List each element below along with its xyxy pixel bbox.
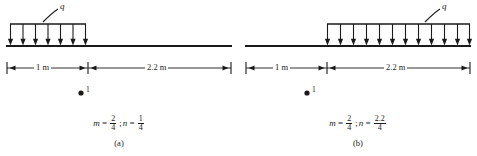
formula-a-m-numerator: 2: [110, 115, 116, 123]
dimension-label-a-2: 2.2 m: [145, 63, 168, 72]
formula-b-eq2: =: [366, 118, 371, 128]
formula-b-eq1: =: [338, 118, 343, 128]
load-leader-b: [425, 9, 440, 22]
caption-b: (b): [239, 139, 477, 148]
caption-a: (a): [0, 139, 238, 148]
load-leader-a: [43, 9, 58, 22]
panel-a: q 1 m 2.2 m 1 m = 2 4 ;n = 1 4 (a): [0, 0, 238, 156]
point-label-a: 1: [86, 86, 90, 94]
formula-a-n-var: n: [123, 118, 128, 128]
formula-b-m-numerator: 2: [346, 115, 352, 123]
dimension-label-a-1: 1 m: [34, 63, 51, 72]
formula-a-n-fraction: 1 4: [138, 115, 144, 133]
load-label-a: q: [60, 2, 65, 11]
load-arrows-a: [8, 24, 88, 45]
formula-b-n-denominator: 4: [374, 123, 386, 132]
load-arrows-b: [325, 24, 472, 45]
formula-b: m = 2 4 ;n = 2.2 4: [239, 115, 477, 133]
formula-b-n-var: n: [359, 118, 364, 128]
formula-a-eq2: =: [130, 118, 135, 128]
beam-load-figure: q 1 m 2.2 m 1 m = 2 4 ;n = 1 4 (a): [0, 0, 477, 156]
formula-b-m-var: m: [329, 118, 336, 128]
panel-a-drawing: [0, 0, 238, 100]
formula-a-n-denominator: 4: [138, 123, 144, 132]
load-label-b: q: [442, 2, 447, 11]
formula-a-m-var: m: [93, 118, 100, 128]
point-label-b: 1: [312, 86, 316, 94]
point-marker-a: [78, 90, 83, 95]
panel-b: q 1 m 2.2 m 1 m = 2 4 ;n = 2.2 4 (b): [239, 0, 477, 156]
formula-a-m-denominator: 4: [110, 123, 116, 132]
formula-a-n-numerator: 1: [138, 115, 144, 123]
formula-b-n-fraction: 2.2 4: [374, 115, 386, 133]
dimension-label-b-1: 1 m: [273, 63, 290, 72]
panel-b-drawing: [239, 0, 477, 100]
formula-a: m = 2 4 ;n = 1 4: [0, 115, 238, 133]
dimension-label-b-2: 2.2 m: [384, 63, 407, 72]
formula-b-n-numerator: 2.2: [374, 115, 386, 123]
formula-a-eq1: =: [102, 118, 107, 128]
formula-b-m-denominator: 4: [346, 123, 352, 132]
formula-b-m-fraction: 2 4: [346, 115, 352, 133]
formula-a-m-fraction: 2 4: [110, 115, 116, 133]
point-marker-b: [304, 90, 309, 95]
